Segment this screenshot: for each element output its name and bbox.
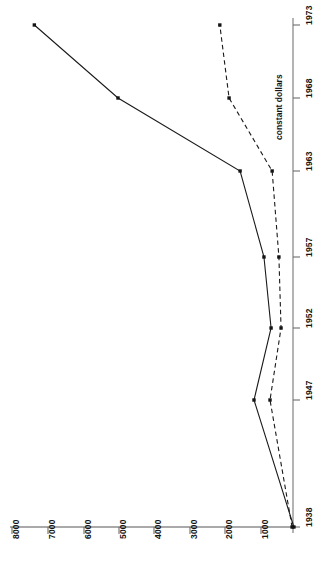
data-point-constant-dollars-1947 (268, 398, 271, 401)
data-point-current-dollars-1947 (252, 398, 255, 401)
value-tick-label-1000: 1000 (261, 519, 270, 539)
year-tick-label-1952: 1952 (305, 308, 314, 328)
value-tick-label-2000: 2000 (225, 519, 234, 539)
value-tick-label-6000: 6000 (84, 519, 93, 539)
year-tick-label-1947: 1947 (305, 380, 314, 400)
year-tick-label-1957: 1957 (305, 237, 314, 257)
data-point-current-dollars-1963 (238, 169, 241, 172)
value-tick-label-8000: 8000 (12, 519, 21, 539)
value-tick-label-3000: 3000 (190, 519, 199, 539)
series-current-dollars (33, 23, 296, 528)
series-annotation-constant-dollars: constant dollars (275, 74, 284, 140)
data-point-current-dollars-1957 (262, 255, 265, 258)
data-point-constant-dollars-1952 (279, 326, 282, 329)
data-point-constant-dollars-1938 (290, 525, 293, 528)
value-tick-label-4000: 4000 (154, 519, 163, 539)
data-point-current-dollars-1952 (269, 326, 272, 329)
data-point-constant-dollars-1968 (227, 96, 230, 99)
data-point-constant-dollars-1957 (277, 255, 280, 258)
year-tick-label-1938: 1938 (305, 507, 314, 527)
series-layer (33, 23, 296, 528)
year-tick-label-1963: 1963 (305, 151, 314, 171)
data-point-current-dollars-1968 (116, 96, 119, 99)
data-point-constant-dollars-1973 (218, 23, 221, 26)
chart-figure: 8000 7000 6000 5000 4000 3000 2000 1000 … (0, 0, 322, 579)
value-tick-label-7000: 7000 (48, 519, 57, 539)
year-axis-group (293, 18, 300, 533)
year-tick-label-1968: 1968 (305, 78, 314, 98)
series-line-current-dollars (34, 25, 294, 527)
year-tick-label-1973: 1973 (305, 5, 314, 25)
data-point-constant-dollars-1963 (270, 169, 273, 172)
data-point-current-dollars-1973 (33, 23, 36, 26)
value-tick-label-5000: 5000 (119, 519, 128, 539)
